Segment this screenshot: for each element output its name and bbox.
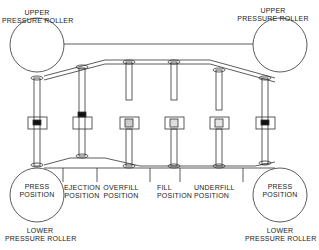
label-line: POSITION [64, 192, 100, 200]
label-lower-right-roller: LOWER PRESSURE ROLLER [245, 227, 315, 243]
label-press-left: PRESS POSITION [17, 183, 57, 199]
punch-press-right [256, 76, 275, 165]
label-line: EJECTION [64, 184, 100, 192]
label-line: POSITION [194, 192, 234, 200]
label-line: OVERFILL [103, 184, 139, 192]
upper-right-roller [253, 18, 307, 72]
punch-fill [165, 60, 184, 168]
label-line: POSITION [260, 191, 300, 199]
label-line: UPPER [2, 9, 72, 17]
label-line: FILL [157, 184, 193, 192]
label-line: LOWER [5, 227, 75, 235]
label-line: UNDERFILL [194, 184, 234, 192]
label-line: POSITION [103, 192, 139, 200]
label-line: PRESS [17, 183, 57, 191]
label-line: UPPER [233, 7, 313, 15]
label-line: PRESS [260, 183, 300, 191]
punch-press-left [28, 76, 47, 167]
label-overfill: OVERFILL POSITION [103, 184, 139, 200]
label-upper-left-roller: UPPER PRESSURE ROLLER [2, 9, 72, 25]
label-lower-left-roller: LOWER PRESSURE ROLLER [5, 227, 75, 243]
upper-left-roller [10, 18, 64, 72]
label-line: PRESSURE ROLLER [245, 235, 315, 243]
punch-overfill [120, 60, 139, 168]
label-underfill: UNDERFILL POSITION [194, 184, 234, 200]
label-upper-right-roller: UPPER PRESSURE ROLLER [233, 7, 313, 23]
label-line: POSITION [157, 192, 193, 200]
label-fill: FILL POSITION [157, 184, 193, 200]
punch-ejection [73, 65, 92, 158]
punch-underfill [210, 68, 229, 168]
label-line: PRESSURE ROLLER [2, 17, 72, 25]
label-line: PRESSURE ROLLER [233, 15, 313, 23]
label-ejection: EJECTION POSITION [64, 184, 100, 200]
tablet-press-diagram [0, 0, 319, 250]
label-line: LOWER [245, 227, 315, 235]
label-press-right: PRESS POSITION [260, 183, 300, 199]
label-line: POSITION [17, 191, 57, 199]
label-line: PRESSURE ROLLER [5, 235, 75, 243]
